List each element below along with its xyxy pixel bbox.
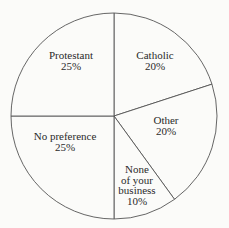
label-other-pct: 20% xyxy=(153,126,178,137)
label-other-name: Other xyxy=(153,115,178,126)
label-catholic-pct: 20% xyxy=(136,61,173,72)
label-none-pct: 10% xyxy=(118,196,155,207)
label-no-preference: No preference 25% xyxy=(34,131,97,152)
label-none-line1: None xyxy=(118,164,155,175)
pie-slices xyxy=(11,13,217,219)
label-none-of-your-business: None of your business 10% xyxy=(118,164,155,206)
label-other: Other 20% xyxy=(153,115,178,136)
pie-chart xyxy=(0,0,229,228)
label-protestant: Protestant 25% xyxy=(49,50,93,71)
label-no-preference-pct: 25% xyxy=(34,142,97,153)
label-protestant-name: Protestant xyxy=(49,50,93,61)
label-catholic: Catholic 20% xyxy=(136,50,173,71)
label-catholic-name: Catholic xyxy=(136,50,173,61)
label-no-preference-name: No preference xyxy=(34,131,97,142)
label-protestant-pct: 25% xyxy=(49,61,93,72)
